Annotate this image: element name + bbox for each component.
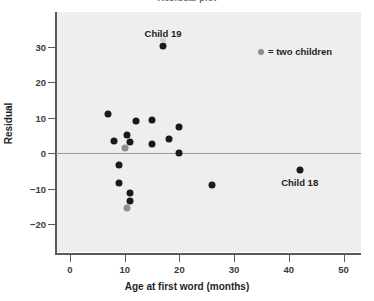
x-tick-mark bbox=[289, 255, 290, 262]
data-point bbox=[116, 162, 123, 169]
data-point bbox=[296, 167, 303, 174]
data-point bbox=[165, 135, 172, 142]
child-18-label: Child 18 bbox=[281, 177, 318, 188]
chart-title-text: Residual plot bbox=[157, 0, 216, 3]
data-point-two-children bbox=[124, 205, 131, 212]
data-point bbox=[105, 111, 112, 118]
legend: = two children bbox=[258, 46, 332, 57]
legend-label: = two children bbox=[268, 46, 332, 57]
x-tick-label: 20 bbox=[174, 264, 185, 275]
data-point bbox=[127, 197, 134, 204]
x-tick-label: 50 bbox=[338, 264, 349, 275]
y-tick-mark bbox=[48, 224, 55, 225]
y-tick-mark bbox=[48, 118, 55, 119]
y-tick-mark bbox=[48, 153, 55, 154]
two-children-marker-icon bbox=[258, 49, 264, 55]
data-point bbox=[127, 189, 134, 196]
data-point bbox=[160, 43, 167, 50]
data-point bbox=[209, 182, 216, 189]
y-tick-label: 20 bbox=[0, 77, 46, 88]
y-tick-label: 30 bbox=[0, 41, 46, 52]
x-tick-mark bbox=[179, 255, 180, 262]
y-tick-label: −10 bbox=[0, 183, 46, 194]
y-tick-mark bbox=[48, 82, 55, 83]
child-19-label: Child 19 bbox=[145, 28, 182, 39]
y-tick-label: 0 bbox=[0, 148, 46, 159]
y-tick-mark bbox=[48, 47, 55, 48]
data-point bbox=[176, 124, 183, 131]
data-point bbox=[124, 132, 131, 139]
x-axis-line bbox=[55, 253, 361, 255]
y-tick-mark bbox=[48, 189, 55, 190]
x-tick-label: 30 bbox=[229, 264, 240, 275]
data-point bbox=[132, 117, 139, 124]
x-tick-mark bbox=[125, 255, 126, 262]
data-point bbox=[149, 117, 156, 124]
zero-reference-line bbox=[56, 153, 361, 154]
x-tick-label: 0 bbox=[67, 264, 72, 275]
residual-plot-figure: Residual plot −20−100102030 01020304050 … bbox=[0, 0, 374, 301]
x-tick-mark bbox=[344, 255, 345, 262]
data-point-two-children bbox=[121, 144, 128, 151]
x-tick-mark bbox=[70, 255, 71, 262]
data-point bbox=[116, 180, 123, 187]
x-tick-label: 40 bbox=[284, 264, 295, 275]
data-point bbox=[110, 137, 117, 144]
x-axis-label: Age at first word (months) bbox=[0, 281, 374, 292]
y-axis-label: Residual bbox=[3, 103, 14, 145]
y-axis-line bbox=[55, 12, 57, 254]
data-point bbox=[127, 139, 134, 146]
y-tick-label: −20 bbox=[0, 219, 46, 230]
data-point bbox=[176, 150, 183, 157]
x-tick-mark bbox=[234, 255, 235, 262]
x-tick-label: 10 bbox=[119, 264, 130, 275]
data-point bbox=[149, 141, 156, 148]
clipped-chart-title: Residual plot bbox=[0, 0, 374, 7]
